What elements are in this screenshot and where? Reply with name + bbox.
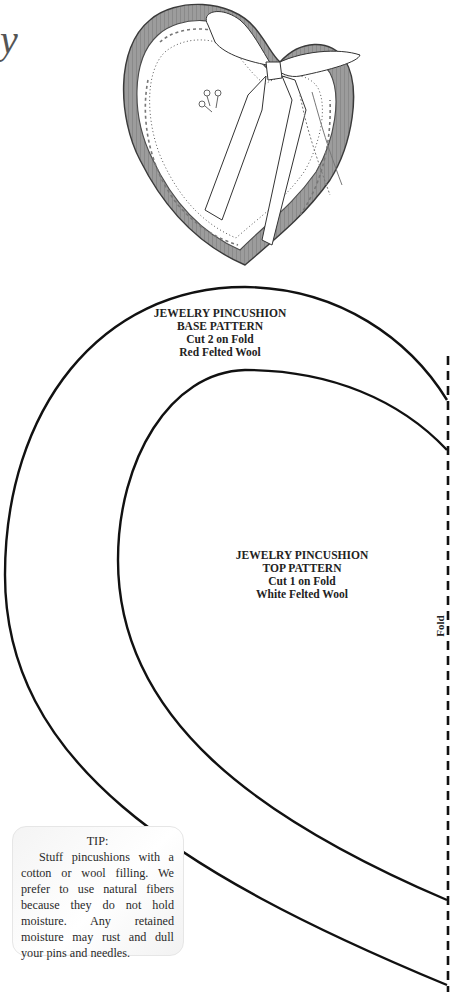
top-pattern-line: TOP PATTERN (222, 562, 382, 575)
top-pattern-line: White Felted Wool (222, 588, 382, 601)
base-pattern-line: Cut 2 on Fold (150, 333, 290, 346)
base-pattern-line: BASE PATTERN (150, 320, 290, 333)
base-pattern-line: Red Felted Wool (150, 346, 290, 359)
base-pattern-line: JEWELRY PINCUSHION (150, 307, 290, 320)
top-pattern-line: Cut 1 on Fold (222, 575, 382, 588)
tip-title: TIP: (21, 833, 174, 849)
top-pattern-label: JEWELRY PINCUSHION TOP PATTERN Cut 1 on … (222, 549, 382, 601)
top-pattern-outline (118, 370, 447, 900)
tip-body: Stuff pincushions with a cotton or wool … (21, 849, 174, 961)
fold-label: Fold (434, 613, 446, 639)
tip-box: TIP: Stuff pincushions with a cotton or … (12, 826, 184, 956)
base-pattern-label: JEWELRY PINCUSHION BASE PATTERN Cut 2 on… (150, 307, 290, 359)
top-pattern-line: JEWELRY PINCUSHION (222, 549, 382, 562)
